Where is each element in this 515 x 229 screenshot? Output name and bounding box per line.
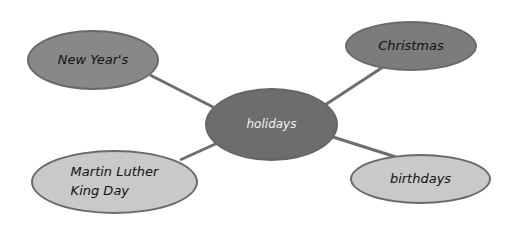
node-label: holidays: [247, 116, 297, 133]
node-center-holidays: holidays: [205, 88, 338, 161]
connector-new-years: [150, 75, 215, 108]
connector-christmas: [325, 67, 383, 105]
node-label: Martin Luther King Day: [71, 163, 159, 201]
mind-map-canvas: New Year's Christmas holidays Martin Lut…: [0, 0, 515, 229]
node-new-years: New Year's: [27, 30, 159, 90]
node-birthdays: birthdays: [350, 154, 491, 204]
node-label-line1: Martin Luther: [71, 163, 159, 182]
node-label-line2: King Day: [71, 182, 159, 201]
connector-birthdays: [333, 137, 396, 157]
node-christmas: Christmas: [345, 21, 477, 71]
node-label: New Year's: [58, 51, 129, 70]
node-label: birthdays: [390, 170, 451, 189]
node-mlk-day: Martin Luther King Day: [31, 150, 198, 214]
node-label: Christmas: [378, 37, 444, 56]
